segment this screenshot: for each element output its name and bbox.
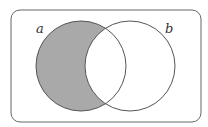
- venn-diagram: a b: [0, 0, 208, 127]
- set-a-label: a: [36, 21, 44, 36]
- set-b-label: b: [165, 21, 173, 36]
- set-b-circle: [85, 21, 175, 111]
